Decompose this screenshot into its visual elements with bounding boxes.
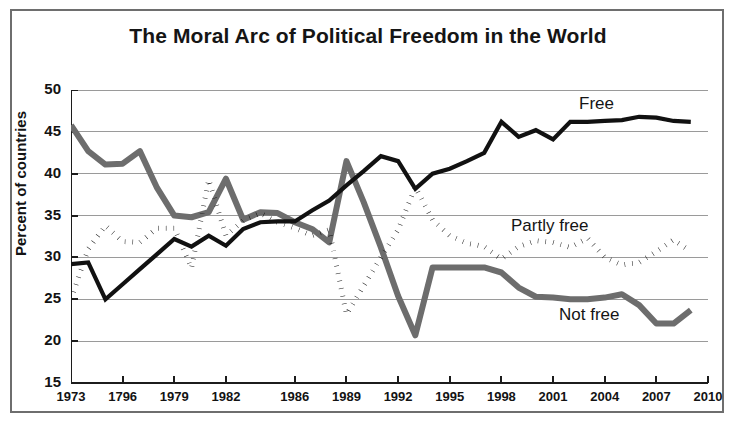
x-tick-label: 1979 [148, 389, 200, 404]
y-tick-label: 20 [23, 331, 61, 348]
x-tick-label: 2010 [682, 389, 734, 404]
x-tick-label: 1995 [424, 389, 476, 404]
x-tick-label: 1796 [97, 389, 149, 404]
series-label-free: Free [576, 94, 617, 114]
page-title: The Moral Arc of Political Freedom in th… [0, 24, 736, 48]
x-tick-label: 1989 [320, 389, 372, 404]
x-tick-label: 1986 [269, 389, 321, 404]
x-tick-label: 2007 [630, 389, 682, 404]
y-tick-label: 40 [23, 164, 61, 181]
x-tick-label: 2001 [527, 389, 579, 404]
y-tick-label: 50 [23, 80, 61, 97]
chart-figure: The Moral Arc of Political Freedom in th… [0, 0, 736, 423]
y-tick-label: 45 [23, 122, 61, 139]
y-tick-label: 35 [23, 206, 61, 223]
axis-lines [71, 90, 708, 383]
x-tick-label: 1982 [200, 389, 252, 404]
gridlines [71, 90, 708, 341]
series-label-partly-free: Partly free [508, 216, 591, 236]
x-tick-label: 1998 [475, 389, 527, 404]
series-canvas [71, 90, 731, 390]
series-line-free [71, 117, 691, 300]
x-tick-label: 2004 [579, 389, 631, 404]
plot-area [71, 90, 708, 383]
y-tick-label: 15 [23, 373, 61, 390]
y-tick-label: 25 [23, 289, 61, 306]
x-tick-label: 1973 [45, 389, 97, 404]
x-tick-label: 1992 [372, 389, 424, 404]
series-label-not-free: Not free [556, 305, 622, 325]
y-tick-label: 30 [23, 247, 61, 264]
